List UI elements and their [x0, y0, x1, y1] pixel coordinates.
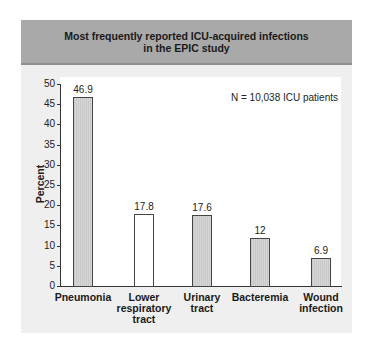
bar-value-label: 12	[240, 225, 280, 236]
chart-title-line-2: in the EPIC study	[143, 42, 229, 54]
sample-size-annotation: N = 10,038 ICU patients	[231, 92, 338, 103]
chart-title-banner: Most frequently reported ICU-acquired in…	[21, 20, 352, 65]
bar-value-label: 6.9	[301, 245, 341, 256]
y-tick-label: 5	[30, 261, 55, 271]
bar-pneumonia	[73, 97, 93, 287]
y-tick-label: 40	[30, 119, 55, 129]
bar-value-label: 17.8	[124, 201, 164, 212]
category-label: Bacteremia	[225, 292, 295, 303]
y-axis-title: Percent	[34, 154, 46, 214]
category-label: Pneumonia	[48, 292, 118, 303]
y-tick-label: 0	[30, 281, 55, 291]
y-tick-label: 45	[30, 99, 55, 109]
y-axis	[60, 84, 61, 287]
bar-urinary-tract	[192, 215, 212, 287]
bar-value-label: 46.9	[63, 84, 103, 95]
bar-wound-infection	[311, 258, 331, 287]
bar-value-label: 17.6	[182, 202, 222, 213]
bar-bacteremia	[250, 238, 270, 287]
y-tick-label: 35	[30, 140, 55, 150]
chart-title-line-1: Most frequently reported ICU-acquired in…	[64, 30, 308, 42]
y-tick-label: 10	[30, 241, 55, 251]
category-label: Woundinfection	[286, 292, 356, 314]
y-tick-label: 50	[30, 79, 55, 89]
bar-lower-respiratory-tract	[134, 214, 154, 287]
y-tick-label: 15	[30, 220, 55, 230]
